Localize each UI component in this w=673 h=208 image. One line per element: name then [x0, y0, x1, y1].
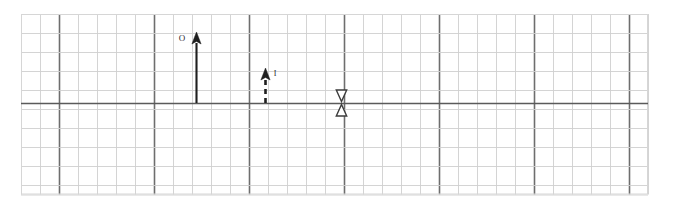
vector-label: I: [274, 69, 277, 78]
vector-label: O: [179, 33, 186, 43]
figure-canvas: OI: [0, 0, 673, 208]
grid-diagram: OI: [0, 0, 673, 208]
grid-layer: [21, 14, 649, 195]
